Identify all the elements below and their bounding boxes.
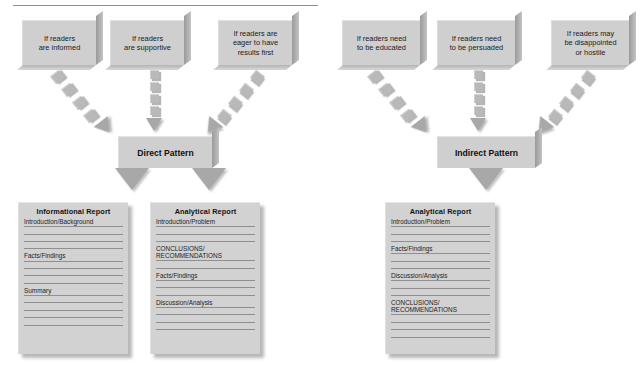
condition-box-informed: If readers are informed — [22, 20, 96, 65]
section-label: Facts/Findings — [391, 245, 490, 254]
section-label: Summary — [24, 287, 123, 296]
analytical-report-document-direct: Analytical Report Introduction/Problem C… — [150, 202, 260, 354]
ruled-line — [24, 276, 123, 283]
condition-box-hostile: If readers may be disappointed or hostil… — [551, 20, 629, 65]
condition-text: If readers need to be educated — [357, 34, 407, 53]
condition-box-persuaded: If readers need to be persuaded — [437, 20, 515, 65]
document-title: Informational Report — [24, 207, 123, 216]
condition-box-educated: If readers need to be educated — [342, 20, 420, 65]
section-label: Introduction/Problem — [156, 218, 255, 227]
ruled-line — [24, 227, 123, 234]
ruled-line — [156, 288, 255, 295]
condition-box-eager: If readers are eager to have results fir… — [218, 20, 292, 65]
indirect-pattern-box: Indirect Pattern — [437, 136, 535, 168]
document-title: Analytical Report — [156, 207, 255, 216]
header-divider — [13, 5, 318, 6]
section-label: Introduction/Problem — [391, 218, 490, 227]
document-body: Introduction/Background Facts/Findings S… — [24, 218, 123, 326]
arrowhead-icon — [470, 118, 486, 131]
ruled-line — [24, 242, 123, 249]
ruled-line — [156, 315, 255, 322]
ruled-line — [391, 281, 490, 288]
document-title: Analytical Report — [391, 207, 490, 216]
condition-text: If readers are informed — [39, 34, 81, 53]
ruled-line — [391, 323, 490, 330]
ruled-line — [156, 308, 255, 315]
arrowhead-icon — [146, 118, 162, 131]
ruled-line — [156, 281, 255, 288]
ruled-line — [24, 318, 123, 325]
condition-box-supportive: If readers are supportive — [110, 20, 184, 65]
arrow-indirect-to-analytical — [469, 168, 503, 190]
arrow-direct-to-analytical — [192, 168, 226, 190]
ruled-line — [391, 289, 490, 296]
arrow-direct-to-informational — [115, 168, 149, 190]
ruled-line — [156, 227, 255, 234]
ruled-line — [391, 235, 490, 242]
indirect-pattern-label: Indirect Pattern — [455, 148, 518, 158]
condition-text: If readers are supportive — [124, 34, 171, 53]
section-label: CONCLUSIONS/ RECOMMENDATIONS — [156, 245, 255, 261]
ruled-line — [24, 269, 123, 276]
diagram-canvas: If readers are informed If readers are s… — [0, 0, 643, 379]
section-label: Facts/Findings — [156, 272, 255, 281]
document-body: Introduction/Problem CONCLUSIONS/ RECOMM… — [156, 218, 255, 330]
ruled-line — [24, 303, 123, 310]
ruled-line — [24, 235, 123, 242]
ruled-line — [24, 296, 123, 303]
direct-pattern-box: Direct Pattern — [118, 136, 212, 168]
arrowhead-icon — [411, 116, 434, 138]
document-body: Introduction/Problem Facts/Findings Disc… — [391, 218, 490, 338]
section-label: Discussion/Analysis — [391, 272, 490, 281]
ruled-line — [391, 254, 490, 261]
condition-text: If readers are eager to have results fir… — [233, 29, 278, 57]
ruled-line — [156, 261, 255, 268]
ruled-line — [24, 262, 123, 269]
informational-report-document: Informational Report Introduction/Backgr… — [18, 202, 128, 354]
section-label: Introduction/Background — [24, 218, 123, 227]
section-label: Facts/Findings — [24, 252, 123, 261]
section-label: Discussion/Analysis — [156, 299, 255, 308]
ruled-line — [391, 315, 490, 322]
ruled-line — [391, 262, 490, 269]
arrowhead-icon — [94, 116, 117, 138]
ruled-line — [156, 323, 255, 330]
ruled-line — [391, 330, 490, 337]
direct-pattern-label: Direct Pattern — [137, 148, 193, 158]
condition-text: If readers need to be persuaded — [450, 34, 503, 53]
analytical-report-document-indirect: Analytical Report Introduction/Problem F… — [385, 202, 495, 354]
condition-text: If readers may be disappointed or hostil… — [564, 29, 616, 57]
ruled-line — [391, 227, 490, 234]
ruled-line — [24, 311, 123, 318]
section-label: CONCLUSIONS/ RECOMMENDATIONS — [391, 299, 490, 315]
ruled-line — [156, 235, 255, 242]
